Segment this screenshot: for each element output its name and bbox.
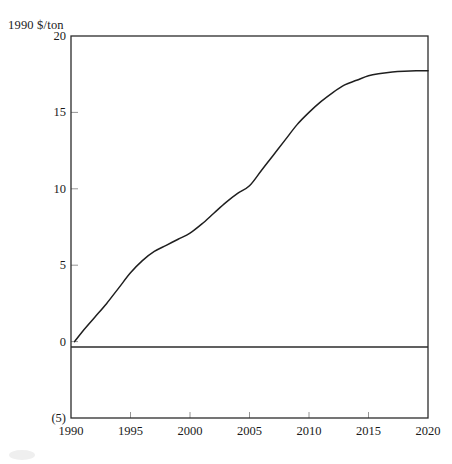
plot-frame	[71, 36, 428, 418]
plot-area	[0, 0, 452, 464]
series-line-carbon-price	[75, 71, 428, 342]
page-artifact	[9, 450, 35, 460]
chart-figure: 1990 $/ton 20151050(5) 19901995200020052…	[0, 0, 452, 464]
axis-tickmarks	[71, 112, 369, 418]
